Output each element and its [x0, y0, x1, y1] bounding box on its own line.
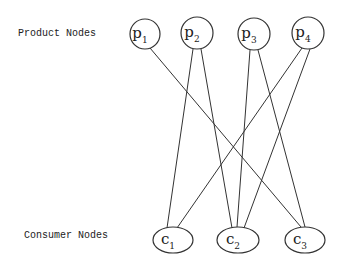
- edge-p4-c2: [244, 49, 310, 228]
- edges-layer: [150, 48, 310, 228]
- edge-p4-c1: [177, 48, 302, 228]
- consumer-nodes-layer: c1c2c3: [153, 227, 325, 253]
- product-node-p1: p1: [130, 19, 160, 49]
- product-node-p3: p3: [238, 18, 270, 50]
- edge-p2-c2: [201, 49, 232, 228]
- consumer-node-c2: c2: [217, 227, 259, 253]
- bipartite-graph: Product Nodes Consumer Nodes p1p2p3p4 c1…: [0, 0, 346, 266]
- consumer-node-c3: c3: [285, 227, 325, 253]
- edge-p2-c1: [167, 49, 193, 228]
- consumer-node-c1: c1: [153, 227, 193, 253]
- product-node-p4: p4: [292, 17, 324, 49]
- consumer-nodes-label: Consumer Nodes: [24, 230, 108, 241]
- product-node-p2: p2: [181, 17, 213, 49]
- product-nodes-label: Product Nodes: [18, 28, 96, 39]
- edge-p3-c3: [258, 50, 305, 227]
- edge-p1-c3: [150, 48, 301, 227]
- product-nodes-layer: p1p2p3p4: [130, 17, 324, 50]
